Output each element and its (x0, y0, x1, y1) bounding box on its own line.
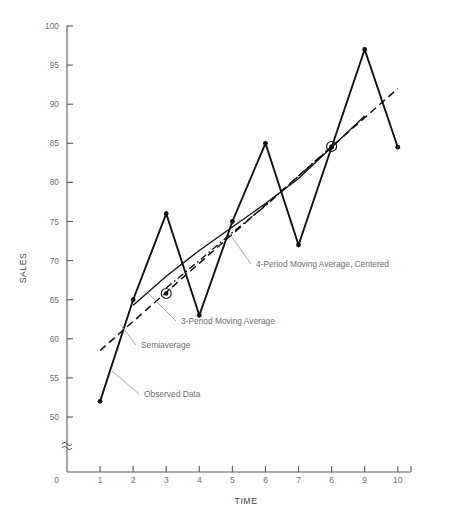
data-point-10 (395, 145, 400, 150)
y-ticklabel-100: 100 (45, 21, 59, 31)
annotation-semiaverage: Semiaverage (141, 340, 191, 350)
y-axis-title: SALES (18, 253, 28, 284)
data-point-1 (98, 399, 103, 404)
y-ticklabel-85: 85 (50, 138, 60, 148)
y-axis: 505560657075808590951000 (45, 21, 73, 485)
y-ticklabel-50: 50 (50, 412, 60, 422)
series-line-semiaverage (100, 89, 398, 351)
annotation-observed: Observed Data (144, 389, 201, 399)
x-ticklabel-2: 2 (131, 475, 136, 485)
y-ticklabel-75: 75 (50, 217, 60, 227)
y-ticklabel-70: 70 (50, 256, 60, 266)
annotation-ma4-leader (229, 233, 251, 264)
sales-time-series-chart: 505560657075808590951000 12345678910 SAL… (0, 0, 457, 528)
annotation-layer: 4-Period Moving Average, Centered3-Perio… (112, 233, 389, 399)
annotation-ma3: 3-Period Moving Average (181, 316, 275, 326)
data-point-3 (164, 211, 169, 216)
x-ticklabel-5: 5 (230, 475, 235, 485)
y-ticklabel-65: 65 (50, 295, 60, 305)
annotation-ma4: 4-Period Moving Average, Centered (256, 259, 389, 269)
x-ticklabel-3: 3 (164, 475, 169, 485)
y-origin-label: 0 (54, 475, 59, 485)
x-axis-title: TIME (235, 496, 258, 506)
series-layer (98, 47, 400, 404)
data-point-5 (230, 219, 235, 224)
chart-figure: 505560657075808590951000 12345678910 SAL… (0, 0, 457, 528)
data-point-9 (362, 47, 367, 52)
x-ticklabel-9: 9 (362, 475, 367, 485)
y-ticklabel-60: 60 (50, 334, 60, 344)
x-ticklabel-4: 4 (197, 475, 202, 485)
y-ticklabel-90: 90 (50, 99, 60, 109)
y-ticklabel-55: 55 (50, 373, 60, 383)
semiaverage-midpoint-right (329, 144, 333, 148)
semiaverage-midpoint-left (164, 291, 168, 295)
data-point-6 (263, 141, 268, 146)
series-line-3-period-moving-average (133, 116, 365, 305)
x-axis: 12345678910 (67, 466, 411, 485)
annotation-observed-leader (112, 371, 139, 394)
x-ticklabel-7: 7 (296, 475, 301, 485)
annotation-ma3-leader (148, 293, 176, 321)
data-point-7 (296, 243, 301, 248)
x-ticklabel-10: 10 (393, 475, 403, 485)
x-ticklabel-6: 6 (263, 475, 268, 485)
y-ticklabel-80: 80 (50, 177, 60, 187)
data-point-2 (131, 297, 136, 302)
x-ticklabel-1: 1 (98, 475, 103, 485)
x-ticklabel-8: 8 (329, 475, 334, 485)
y-ticklabel-95: 95 (50, 60, 60, 70)
